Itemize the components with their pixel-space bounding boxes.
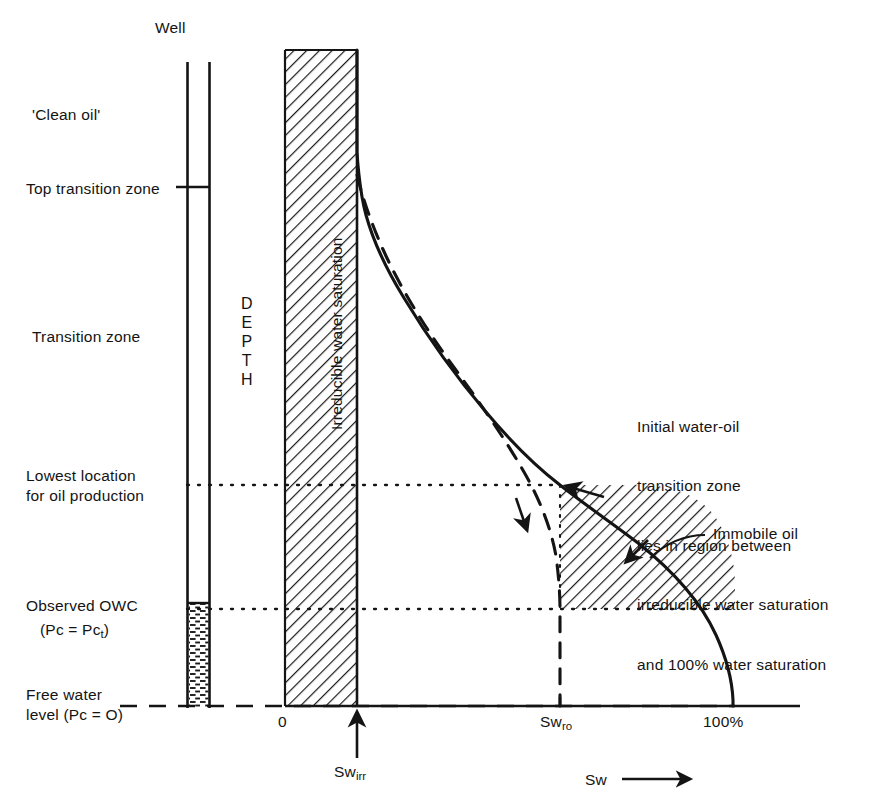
owc-expr-post: ) [104, 621, 109, 638]
depth-marker-transition-zone: Transition zone [32, 327, 140, 347]
depth-marker-lowest-location: Lowest location for oil production [26, 466, 144, 506]
depth-marker-clean-oil: 'Clean oil' [32, 105, 100, 125]
swro-base: Sw [540, 713, 562, 730]
note-line-1: Initial water-oil [637, 417, 829, 437]
depth-letter-d: D [236, 295, 258, 314]
observed-owc-pressure-expression: (Pc = Pct) [40, 620, 109, 642]
well-water-column [189, 603, 209, 707]
depth-marker-observed-owc: Observed OWC [26, 596, 138, 616]
depth-marker-top-transition: Top transition zone [26, 179, 160, 199]
depth-marker-free-water-level: Free water level (Pc = O) [26, 685, 123, 725]
note-line-5: and 100% water saturation [637, 655, 829, 675]
note-line-4: irreducible water saturation [637, 595, 829, 615]
irreducible-water-band [285, 50, 357, 706]
depth-letter-h: H [236, 371, 258, 390]
swirr-subscript: irr [356, 770, 366, 782]
depth-letter-e: E [236, 314, 258, 333]
x-tick-label-hundred-percent: 100% [703, 712, 743, 732]
irreducible-band-hatch [285, 50, 357, 706]
depth-letter-t: T [236, 352, 258, 371]
note-line-2: transition zone [637, 476, 829, 496]
x-tick-label-swirr: Swirr [334, 762, 366, 784]
depth-axis-label: D E P T H [236, 295, 258, 389]
x-tick-label-swro: Swro [540, 712, 572, 734]
well-schematic [176, 62, 210, 708]
depth-letter-p: P [236, 333, 258, 352]
immobile-oil-label: Immobile oil [713, 524, 798, 544]
x-axis-title: Sw [585, 770, 607, 790]
x-tick-label-zero: 0 [278, 712, 287, 732]
swro-subscript: ro [562, 720, 572, 732]
irreducible-water-band-label: Irreducible water saturation [328, 237, 346, 430]
residual-oil-dashed-curve [357, 175, 560, 706]
imbibition-direction-arrow [516, 498, 527, 530]
well-title: Well [155, 18, 186, 38]
swirr-base: Sw [334, 763, 356, 780]
owc-expr-pre: (Pc = Pc [40, 621, 101, 638]
